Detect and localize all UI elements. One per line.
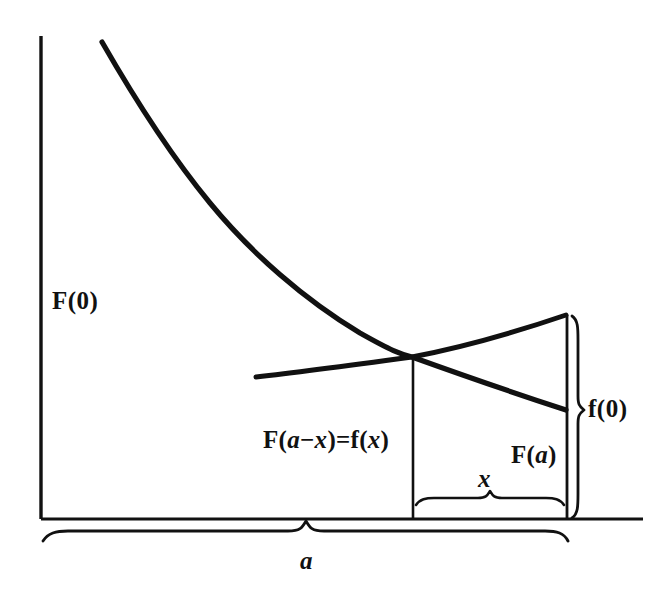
- formula-minus: −: [300, 426, 315, 453]
- figure-background: [0, 0, 669, 599]
- formula-var-a: a: [287, 426, 300, 453]
- label-F-of-a-prefix: F(: [511, 441, 535, 468]
- figure-canvas: F(0) F(a−x)=f(x) F(a) f(0) x a: [0, 0, 669, 599]
- label-a-segment: a: [300, 548, 313, 573]
- figure-drawing: [0, 0, 669, 599]
- formula-suffix: ): [381, 426, 390, 453]
- label-F-of-a-suffix: ): [548, 441, 557, 468]
- formula-mid: )=f(: [327, 426, 367, 453]
- formula-var-x: x: [315, 426, 328, 453]
- label-F-a-minus-x-equals-f-x: F(a−x)=f(x): [263, 427, 389, 452]
- label-x-segment: x: [478, 466, 491, 491]
- formula-var-x2: x: [368, 426, 381, 453]
- label-F-of-zero: F(0): [52, 288, 98, 313]
- label-F-of-a: F(a): [511, 442, 557, 467]
- label-f-of-zero: f(0): [588, 396, 627, 421]
- label-F-of-a-var: a: [535, 441, 548, 468]
- formula-prefix: F(: [263, 426, 287, 453]
